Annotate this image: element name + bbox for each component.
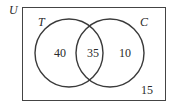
universe-label: U [9, 3, 19, 17]
intersection-count: 35 [87, 46, 99, 60]
c-only-count: 10 [119, 46, 131, 60]
venn-diagram: U T C 40 35 10 15 [0, 0, 171, 107]
set-c-label: C [140, 15, 149, 29]
set-t-label: T [38, 15, 46, 29]
outside-count: 15 [141, 83, 153, 97]
t-only-count: 40 [54, 46, 66, 60]
